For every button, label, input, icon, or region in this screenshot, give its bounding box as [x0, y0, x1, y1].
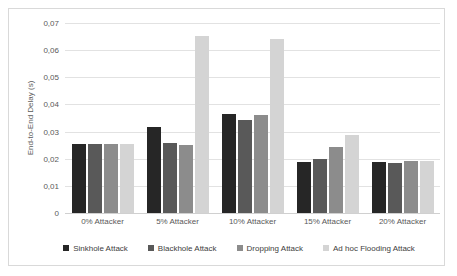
bar-group	[215, 23, 290, 213]
y-axis-tick-label: 0	[55, 209, 59, 218]
y-axis-tick-label: 0,07	[43, 19, 59, 28]
bar-group-bars	[65, 23, 140, 213]
bar[interactable]	[222, 114, 236, 213]
legend-label: Dropping Attack	[247, 244, 303, 253]
bar[interactable]	[388, 163, 402, 213]
legend-item[interactable]: Ad hoc Flooding Attack	[323, 244, 415, 253]
x-axis-tick-label: 0% Attacker	[65, 217, 140, 233]
bar-group	[365, 23, 440, 213]
bar[interactable]	[147, 127, 161, 213]
legend-swatch-icon	[63, 245, 69, 251]
bar-group	[65, 23, 140, 213]
x-axis-tick-label: 10% Attacker	[215, 217, 290, 233]
y-axis-tick-label: 0,03	[43, 127, 59, 136]
legend-swatch-icon	[148, 245, 154, 251]
bar[interactable]	[404, 161, 418, 213]
bar-group-bars	[290, 23, 365, 213]
bar[interactable]	[120, 144, 134, 213]
gridline	[65, 213, 440, 214]
bar[interactable]	[329, 147, 343, 213]
y-axis-tick-label: 0,01	[43, 181, 59, 190]
bar[interactable]	[195, 36, 209, 213]
x-axis-tick-label: 5% Attacker	[140, 217, 215, 233]
bar[interactable]	[372, 162, 386, 213]
bar[interactable]	[72, 144, 86, 213]
bar[interactable]	[313, 159, 327, 213]
x-axis-labels: 0% Attacker5% Attacker10% Attacker15% At…	[65, 217, 440, 233]
chart-legend: Sinkhole AttackBlackhole AttackDropping …	[49, 241, 429, 255]
legend-swatch-icon	[237, 245, 243, 251]
y-axis-tick-label: 0,06	[43, 46, 59, 55]
bar[interactable]	[297, 162, 311, 213]
x-axis-tick-label: 20% Attacker	[365, 217, 440, 233]
bar[interactable]	[88, 144, 102, 213]
bar[interactable]	[179, 145, 193, 213]
x-axis-tick-label: 15% Attacker	[290, 217, 365, 233]
y-axis-tick-label: 0,02	[43, 154, 59, 163]
legend-swatch-icon	[323, 245, 329, 251]
bar[interactable]	[270, 39, 284, 213]
bar-group-bars	[215, 23, 290, 213]
legend-item[interactable]: Dropping Attack	[237, 244, 303, 253]
y-axis-title: End-to-End Delay (s)	[23, 23, 37, 213]
bar[interactable]	[254, 115, 268, 213]
legend-label: Blackhole Attack	[158, 244, 217, 253]
bar[interactable]	[104, 144, 118, 213]
bar-groups	[65, 23, 440, 213]
legend-item[interactable]: Sinkhole Attack	[63, 244, 128, 253]
legend-item[interactable]: Blackhole Attack	[148, 244, 217, 253]
bar[interactable]	[238, 120, 252, 213]
bar[interactable]	[420, 161, 434, 213]
legend-label: Ad hoc Flooding Attack	[333, 244, 415, 253]
chart-frame: End-to-End Delay (s) 0,070,060,050,040,0…	[8, 8, 445, 266]
bar-group-bars	[365, 23, 440, 213]
y-axis-tick-label: 0,05	[43, 73, 59, 82]
bar-group	[290, 23, 365, 213]
y-axis-tick-label: 0,04	[43, 100, 59, 109]
bar-group	[140, 23, 215, 213]
bar-group-bars	[140, 23, 215, 213]
bar[interactable]	[345, 135, 359, 213]
legend-label: Sinkhole Attack	[73, 244, 128, 253]
bar[interactable]	[163, 143, 177, 213]
plot-area: 0,070,060,050,040,030,020,010	[65, 23, 440, 213]
